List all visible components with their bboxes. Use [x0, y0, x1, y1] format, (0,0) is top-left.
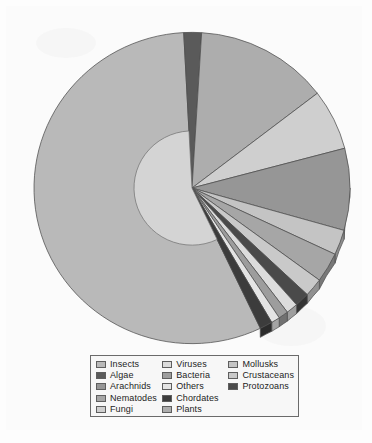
legend-swatch-insects	[96, 361, 106, 368]
legend-label-insects: Insects	[110, 359, 139, 370]
legend-label-mollusks: Mollusks	[242, 359, 278, 370]
legend-label-chordates: Chordates	[176, 393, 218, 404]
legend-swatch-arachnids	[96, 383, 106, 390]
legend-item-others[interactable]: Others	[162, 381, 224, 392]
legend-label-viruses: Viruses	[176, 359, 207, 370]
legend-label-fungi: Fungi	[110, 404, 133, 415]
legend-swatch-algae	[96, 372, 106, 379]
legend-label-bacteria: Bacteria	[176, 370, 210, 381]
legend-column-2: Viruses Bacteria Others Chordates Plants	[162, 359, 224, 415]
legend-item-bacteria[interactable]: Bacteria	[162, 370, 224, 381]
legend-swatch-mollusks	[228, 361, 238, 368]
legend-item-mollusks[interactable]: Mollusks	[228, 359, 294, 370]
legend-swatch-others	[162, 383, 172, 390]
legend-swatch-viruses	[162, 361, 172, 368]
legend-label-algae: Algae	[110, 370, 134, 381]
legend-swatch-fungi	[96, 406, 106, 413]
legend-swatch-protozoans	[228, 383, 238, 390]
legend-swatch-crustaceans	[228, 372, 238, 379]
legend-label-crustaceans: Crustaceans	[242, 370, 294, 381]
legend-item-arachnids[interactable]: Arachnids	[96, 381, 158, 392]
legend-label-arachnids: Arachnids	[110, 381, 151, 392]
legend-item-crustaceans[interactable]: Crustaceans	[228, 370, 294, 381]
scanned-sheet: Insects Algae Arachnids Nematodes Fungi	[6, 6, 362, 430]
legend-item-chordates[interactable]: Chordates	[162, 393, 224, 404]
page-root: Insects Algae Arachnids Nematodes Fungi	[0, 0, 372, 443]
legend-item-plants[interactable]: Plants	[162, 404, 224, 415]
legend-column-3: Mollusks Crustaceans Protozoans	[228, 359, 294, 393]
legend-item-fungi[interactable]: Fungi	[96, 404, 158, 415]
legend-item-insects[interactable]: Insects	[96, 359, 158, 370]
legend-swatch-nematodes	[96, 395, 106, 402]
legend-item-algae[interactable]: Algae	[96, 370, 158, 381]
legend-label-others: Others	[176, 381, 204, 392]
legend-label-protozoans: Protozoans	[242, 381, 289, 392]
legend-label-nematodes: Nematodes	[110, 393, 157, 404]
legend-item-nematodes[interactable]: Nematodes	[96, 393, 158, 404]
legend-item-protozoans[interactable]: Protozoans	[228, 381, 294, 392]
legend-swatch-bacteria	[162, 372, 172, 379]
pie-chart-svg	[10, 10, 362, 346]
legend-label-plants: Plants	[176, 404, 202, 415]
legend-item-viruses[interactable]: Viruses	[162, 359, 224, 370]
chart-legend: Insects Algae Arachnids Nematodes Fungi	[90, 355, 299, 417]
legend-swatch-plants	[162, 406, 172, 413]
pie-chart	[10, 10, 362, 346]
legend-column-1: Insects Algae Arachnids Nematodes Fungi	[96, 359, 158, 415]
legend-swatch-chordates	[162, 395, 172, 402]
